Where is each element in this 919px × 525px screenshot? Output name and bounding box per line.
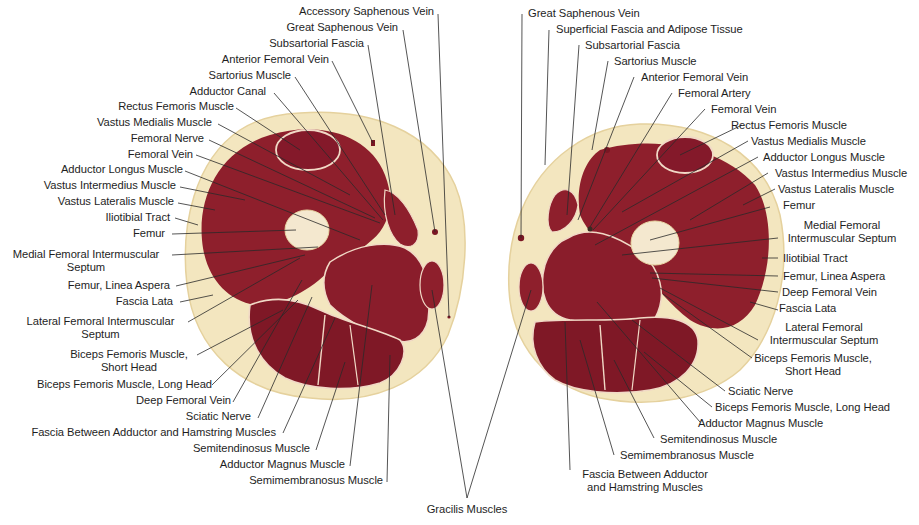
label-rectus-femoris-right: Rectus Femoris Muscle [731, 119, 847, 132]
label-iliotibial-tract-left: Iliotibial Tract [106, 211, 170, 224]
label-rectus-femoris-left: Rectus Femoris Muscle [118, 100, 234, 113]
label-medial-femoral-intermuscular-septum-left: Medial Femoral Intermuscular Septum [6, 248, 166, 273]
label-anterior-femoral-vein-right: Anterior Femoral Vein [641, 71, 748, 84]
label-anterior-femoral-vein-left: Anterior Femoral Vein [222, 53, 329, 66]
label-femur-left: Femur [133, 227, 165, 240]
label-fascia-lata-right: Fascia Lata [779, 302, 836, 315]
label-vastus-medialis-left: Vastus Medialis Muscle [97, 116, 212, 129]
label-semimembranosus-left: Semimembranosus Muscle [249, 474, 383, 487]
label-lateral-femoral-intermuscular-septum-left: Lateral Femoral Intermuscular Septum [18, 315, 183, 340]
label-biceps-femoris-short-head-right: Biceps Femoris Muscle, Short Head [748, 352, 878, 377]
label-biceps-femoris-short-head-left: Biceps Femoris Muscle, Short Head [64, 348, 194, 373]
label-great-saphenous-vein-right: Great Saphenous Vein [528, 7, 640, 20]
label-subsartorial-fascia-left: Subsartorial Fascia [269, 37, 364, 50]
label-deep-femoral-vein-left: Deep Femoral Vein [136, 394, 231, 407]
label-vastus-lateralis-right: Vastus Lateralis Muscle [778, 183, 894, 196]
right-hamstrings [533, 317, 698, 393]
right-rectus-femoris [657, 137, 713, 173]
label-adductor-longus-left: Adductor Longus Muscle [61, 163, 183, 176]
right-femur [631, 221, 679, 265]
label-adductor-magnus-left: Adductor Magnus Muscle [220, 458, 345, 471]
label-sciatic-nerve-left: Sciatic Nerve [186, 410, 251, 423]
right-gracilis [519, 263, 543, 311]
label-sartorius-muscle-right: Sartorius Muscle [614, 55, 697, 68]
label-vastus-intermedius-right: Vastus Intermedius Muscle [775, 167, 907, 180]
label-femur-linea-aspera-left: Femur, Linea Aspera [68, 279, 170, 292]
label-superficial-fascia-adipose: Superficial Fascia and Adipose Tissue [556, 23, 743, 36]
label-fascia-adductor-hamstring-right: Fascia Between Adductor and Hamstring Mu… [574, 468, 716, 493]
label-biceps-femoris-long-head-right: Biceps Femoris Muscle, Long Head [715, 401, 890, 414]
label-femoral-nerve: Femoral Nerve [131, 132, 204, 145]
label-femoral-artery: Femoral Artery [678, 87, 751, 100]
left-rectus-femoris [276, 130, 340, 170]
label-vastus-lateralis-left: Vastus Lateralis Muscle [58, 195, 174, 208]
label-femur-linea-aspera-right: Femur, Linea Aspera [783, 270, 885, 283]
label-semimembranosus-right: Semimembranosus Muscle [620, 449, 754, 462]
label-biceps-femoris-long-head-left: Biceps Femoris Muscle, Long Head [37, 378, 212, 391]
label-fascia-adductor-hamstring-left: Fascia Between Adductor and Hamstring Mu… [31, 426, 276, 439]
label-semitendinosus-left: Semitendinosus Muscle [193, 442, 310, 455]
label-adductor-magnus-right: Adductor Magnus Muscle [698, 417, 823, 430]
label-femoral-vein-left: Femoral Vein [128, 148, 193, 161]
thigh-cross-section-figure: Accessory Saphenous Vein Great Saphenous… [0, 0, 919, 525]
label-vastus-intermedius-left: Vastus Intermedius Muscle [44, 179, 176, 192]
label-vastus-medialis-right: Vastus Medialis Muscle [751, 135, 866, 148]
label-adductor-longus-right: Adductor Longus Muscle [763, 151, 885, 164]
label-medial-femoral-intermuscular-septum-right: Medial Femoral Intermuscular Septum [778, 219, 906, 244]
label-sartorius-muscle-left: Sartorius Muscle [208, 69, 291, 82]
label-adductor-canal: Adductor Canal [190, 85, 266, 98]
label-lateral-femoral-intermuscular-septum-right: Lateral Femoral Intermuscular Septum [762, 321, 886, 346]
label-iliotibial-tract-right: Iliotibial Tract [783, 252, 847, 265]
left-gracilis [420, 261, 444, 309]
label-femoral-vein-right: Femoral Vein [711, 103, 776, 116]
label-great-saphenous-vein-left: Great Saphenous Vein [286, 21, 398, 34]
label-semitendinosus-right: Semitendinosus Muscle [660, 433, 777, 446]
label-subsartorial-fascia-right: Subsartorial Fascia [585, 39, 680, 52]
label-fascia-lata-left: Fascia Lata [116, 295, 173, 308]
label-femur-right: Femur [783, 199, 815, 212]
label-deep-femoral-vein-right: Deep Femoral Vein [782, 286, 877, 299]
label-gracilis-muscles: Gracilis Muscles [417, 503, 517, 516]
label-accessory-saphenous-vein: Accessory Saphenous Vein [299, 5, 434, 18]
label-sciatic-nerve-right: Sciatic Nerve [728, 385, 793, 398]
